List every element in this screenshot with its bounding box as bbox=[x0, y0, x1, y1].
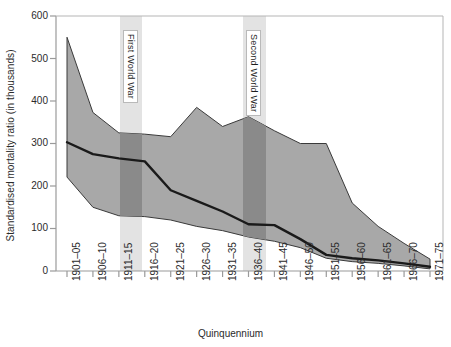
x-tick-label-10: 1951–55 bbox=[330, 242, 341, 281]
x-tick-label-4: 1921–25 bbox=[175, 242, 186, 281]
x-tick-label-11: 1956–60 bbox=[356, 242, 367, 281]
x-tick-label-2: 1911–15 bbox=[123, 243, 134, 281]
first-world-war-label: First World War bbox=[123, 30, 138, 103]
chart-container: Standardised mortality ratio (in thousan… bbox=[0, 0, 451, 347]
x-tick-label-3: 1916–20 bbox=[149, 242, 160, 281]
x-tick-label-13: 1966–70 bbox=[408, 242, 419, 281]
x-tick-label-8: 1941–45 bbox=[278, 242, 289, 281]
x-tick-label-6: 1931–35 bbox=[227, 242, 238, 281]
x-tick-label-7: 1936–40 bbox=[253, 242, 264, 281]
x-axis-title: Quinquennium bbox=[198, 328, 263, 339]
x-tick-label-0: 1901–05 bbox=[71, 242, 82, 281]
x-tick-label-9: 1946–50 bbox=[304, 242, 315, 281]
x-tick-label-1: 1906–10 bbox=[97, 242, 108, 281]
x-tick-label-5: 1926–30 bbox=[201, 242, 212, 281]
second-world-war-label: Second World War bbox=[246, 30, 261, 116]
plot-area bbox=[0, 0, 451, 347]
y-tick-marks bbox=[50, 16, 56, 271]
x-tick-label-14: 1971–75 bbox=[434, 242, 445, 281]
x-tick-label-12: 1961–65 bbox=[382, 242, 393, 281]
x-tick-marks bbox=[67, 271, 430, 277]
